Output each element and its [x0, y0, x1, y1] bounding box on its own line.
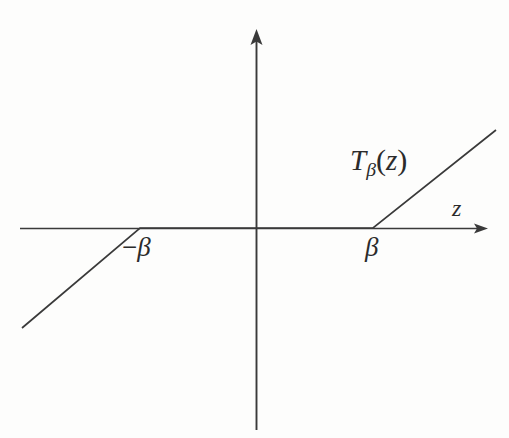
soft-threshold-figure: Tβ(z) z −β β — [0, 0, 509, 438]
figure-canvas — [0, 0, 509, 438]
curve-label-paren-close: ) — [397, 143, 407, 177]
curve-label-t: T — [350, 144, 366, 176]
curve-label-paren-open: ( — [376, 143, 386, 177]
x-tick-label-positive-beta: β — [365, 234, 378, 261]
minus-sign: − — [122, 232, 137, 262]
x-tick-label-negative-beta: −β — [122, 234, 151, 261]
curve-label-t-beta-z: Tβ(z) — [350, 145, 407, 180]
curve-label-subscript-beta: β — [366, 158, 376, 180]
x-axis-label-z: z — [452, 196, 461, 220]
negative-beta-glyph: β — [137, 232, 150, 262]
curve-label-variable-z: z — [386, 144, 397, 176]
